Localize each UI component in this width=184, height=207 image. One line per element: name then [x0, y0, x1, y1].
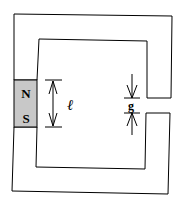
gap-label: g — [128, 99, 134, 113]
length-dimension — [45, 80, 62, 127]
magnetic-circuit-diagram: N S ℓ g — [0, 0, 184, 207]
south-pole-label: S — [22, 111, 29, 126]
length-label: ℓ — [67, 97, 73, 113]
north-pole-label: N — [21, 86, 31, 101]
